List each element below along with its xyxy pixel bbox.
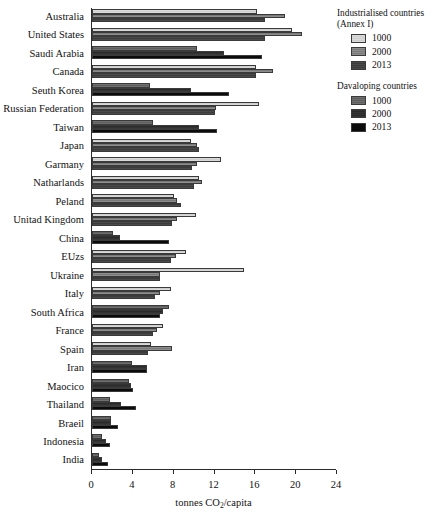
- legend: Industrialised countries(Annex I)1000200…: [337, 8, 448, 208]
- legend-group-title: Industrialised countries: [337, 8, 448, 19]
- x-tick-label-16: 16: [249, 479, 260, 490]
- bar-india-2013: [92, 462, 108, 466]
- bar-group: [92, 248, 336, 266]
- bar-canada-2013: [92, 73, 256, 77]
- legend-label: 2013: [372, 60, 391, 70]
- x-tick-label-4: 4: [129, 479, 134, 490]
- category-label-euzs: EUzs: [61, 252, 84, 263]
- bar-group: [92, 230, 336, 248]
- category-label-unitad-kingdom: Unitad Kingdom: [13, 215, 84, 226]
- bar-group: [92, 433, 336, 451]
- legend-swatch-icon: [351, 109, 366, 118]
- x-tick: [295, 470, 296, 474]
- x-tick-label-24: 24: [331, 479, 342, 490]
- x-tick-label-0: 0: [88, 479, 93, 490]
- bar-australia-2013: [92, 18, 265, 22]
- bar-group: [92, 45, 336, 63]
- x-axis-title: tonnes CO2/capita: [91, 497, 336, 508]
- bar-group: [92, 396, 336, 414]
- plot-wrapper: AustraliaUnited StatesSaudi ArabiaCanada…: [0, 0, 340, 519]
- x-tick-label-12: 12: [208, 479, 219, 490]
- category-label-china: China: [59, 234, 84, 245]
- legend-label: 1000: [372, 96, 391, 106]
- bar-group: [92, 8, 336, 26]
- bar-group: [92, 100, 336, 118]
- category-label-italy: Italy: [65, 289, 84, 300]
- bar-united-states-2013: [92, 36, 265, 40]
- category-label-france: France: [55, 326, 84, 337]
- category-label-australia: Australia: [46, 12, 85, 23]
- x-tick: [336, 470, 337, 474]
- bar-group: [92, 452, 336, 470]
- bar-saudi-arabia-2013: [92, 55, 262, 59]
- category-label-spain: Spain: [60, 345, 84, 356]
- bar-china-2013: [92, 240, 169, 244]
- co2-per-capita-bar-chart: AustraliaUnited StatesSaudi ArabiaCanada…: [0, 0, 448, 519]
- legend-swatch-icon: [351, 96, 366, 105]
- legend-swatch-icon: [351, 47, 366, 56]
- bar-group: [92, 26, 336, 44]
- bar-group: [92, 63, 336, 81]
- bar-euzs-2013: [92, 258, 171, 262]
- bar-south-africa-2013: [92, 314, 160, 318]
- plot-area: [91, 8, 336, 470]
- category-label-iran: Iran: [67, 363, 84, 374]
- legend-item-2013[interactable]: 2013: [351, 60, 448, 70]
- bar-group: [92, 82, 336, 100]
- category-label-maocico: Maocico: [47, 382, 84, 393]
- bar-group: [92, 359, 336, 377]
- category-label-south-africa: South Africa: [31, 308, 84, 319]
- bar-maocico-2013: [92, 388, 133, 392]
- bar-ukraine-2013: [92, 277, 160, 281]
- legend-label: 1000: [372, 33, 391, 43]
- bar-spain-2013: [92, 351, 148, 355]
- bar-garmany-2013: [92, 166, 192, 170]
- x-tick: [214, 470, 215, 474]
- category-axis-labels: AustraliaUnited StatesSaudi ArabiaCanada…: [0, 8, 88, 470]
- bar-group: [92, 267, 336, 285]
- x-axis: tonnes CO2/capita 04812162024: [91, 470, 336, 516]
- bar-group: [92, 211, 336, 229]
- bar-group: [92, 119, 336, 137]
- legend-item-2000[interactable]: 2000: [351, 47, 448, 57]
- legend-label: 2000: [372, 47, 391, 57]
- bar-iran-2013: [92, 369, 147, 373]
- bar-braeil-2013: [92, 425, 118, 429]
- category-label-natharlands: Natharlands: [33, 178, 84, 189]
- bar-group: [92, 304, 336, 322]
- bar-indonesia-2013: [92, 443, 110, 447]
- legend-item-1000[interactable]: 1000: [351, 33, 448, 43]
- bar-group: [92, 378, 336, 396]
- category-label-thailand: Thailand: [47, 400, 84, 411]
- bar-group: [92, 341, 336, 359]
- legend-group-title: Davaloping countries: [337, 81, 448, 92]
- category-label-india: India: [62, 455, 84, 466]
- bar-natharlands-2013: [92, 184, 194, 188]
- category-label-garmany: Garmany: [45, 160, 84, 171]
- bar-group: [92, 285, 336, 303]
- legend-label: 2013: [372, 122, 391, 132]
- legend-swatch-icon: [351, 123, 366, 132]
- legend-item-1000[interactable]: 1000: [351, 96, 448, 106]
- bar-france-2013: [92, 332, 153, 336]
- bar-group: [92, 174, 336, 192]
- x-tick-label-20: 20: [290, 479, 301, 490]
- bar-group: [92, 193, 336, 211]
- category-label-peland: Peland: [55, 197, 84, 208]
- bar-thailand-2013: [92, 406, 136, 410]
- legend-item-2000[interactable]: 2000: [351, 109, 448, 119]
- x-tick: [91, 470, 92, 474]
- category-label-canada: Canada: [53, 67, 85, 78]
- x-axis-title-prefix: tonnes CO: [175, 497, 220, 508]
- bar-peland-2013: [92, 203, 181, 207]
- legend-group-subtitle: (Annex I): [337, 19, 448, 30]
- category-label-braeil: Braeil: [58, 419, 84, 430]
- category-label-indonesia: Indonesia: [43, 437, 84, 448]
- bar-japan-2013: [92, 147, 199, 151]
- category-label-ukraine: Ukraine: [50, 271, 84, 282]
- bar-group: [92, 137, 336, 155]
- x-tick: [254, 470, 255, 474]
- x-axis-title-suffix: /capita: [224, 497, 252, 508]
- legend-item-2013[interactable]: 2013: [351, 122, 448, 132]
- category-label-japan: Japan: [60, 141, 84, 152]
